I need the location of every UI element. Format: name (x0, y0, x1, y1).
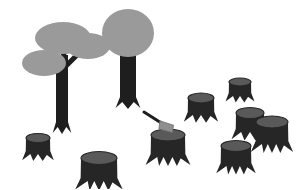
stump-bottom-right-cut-top (221, 141, 251, 152)
deforestation-illustration: Two remaining trees beside an axe stuck … (0, 0, 306, 189)
stump-bottom-center-cut-top (81, 152, 117, 165)
multi-branch-tree-canopy-1 (22, 50, 66, 76)
stump-bottom-center: Large stump, bottom center (75, 152, 123, 190)
stump-mid-right-cut-top (188, 93, 214, 103)
scene-canvas: Tree with three branch canopiesTree with… (0, 0, 306, 189)
stump-right-back-cut-top (236, 108, 264, 119)
round-canopy-tree-canopy-0 (102, 9, 154, 57)
stump-right-front-cut-top (256, 116, 288, 128)
stump-left-lower-cut-top (26, 134, 50, 143)
stump-top-right-cut-top (229, 78, 251, 86)
